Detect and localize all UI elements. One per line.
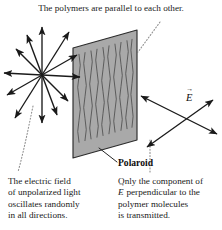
caption-right-line-3: polymer molecules: [118, 199, 203, 210]
e-vector-inline: E: [118, 187, 124, 197]
transmitted-light-arrows: [141, 96, 217, 147]
caption-top: The polymers are parallel to each other.: [0, 3, 222, 14]
e-vector-label: E: [186, 92, 193, 103]
caption-left-line-1: The electric field: [8, 176, 80, 187]
caption-left-line-2: of unpolarized light: [8, 187, 80, 198]
transmitted-ray-descending: [141, 96, 217, 134]
transmitted-ray-ascending: [147, 100, 213, 147]
caption-left-line-3: oscillates randomly: [8, 199, 80, 210]
caption-left: The electric field of unpolarized light …: [8, 176, 80, 222]
leader-line-top: [138, 22, 160, 52]
leader-line-left: [18, 106, 33, 172]
caption-right-line-2: E perpendicular to the: [118, 187, 203, 198]
sheet-face: [73, 30, 137, 158]
leader-line-polaroid: [99, 148, 117, 162]
label-e-field: E: [186, 92, 193, 103]
unpolarized-light-burst: [4, 27, 80, 123]
polaroid-sheet: [73, 30, 137, 158]
caption-left-line-4: in all directions.: [8, 210, 80, 221]
label-polaroid: Polaroid: [118, 157, 153, 168]
caption-right-line-1: Only the component of: [118, 176, 203, 187]
polarization-figure: The polymers are parallel to each other.…: [0, 0, 222, 230]
caption-right-line-2-rest: perpendicular to the: [124, 187, 200, 197]
caption-right: Only the component of E perpendicular to…: [118, 176, 203, 222]
caption-right-line-4: is transmitted.: [118, 210, 203, 221]
